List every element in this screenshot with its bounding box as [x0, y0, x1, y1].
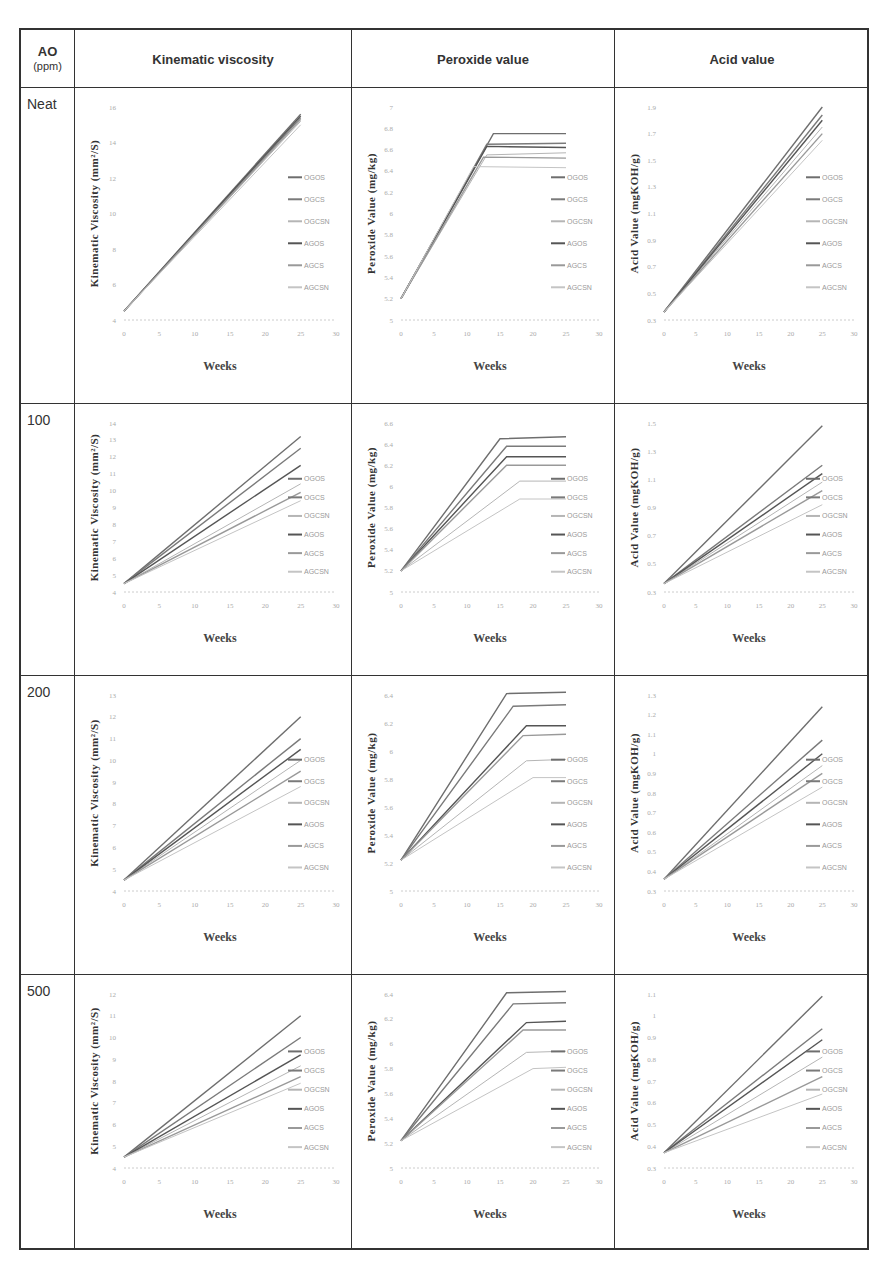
- legend-label: OGOS: [304, 756, 325, 763]
- series-line-agcsn: [401, 778, 566, 861]
- x-axis-label: Weeks: [473, 1207, 507, 1221]
- x-tick-label: 25: [563, 602, 571, 610]
- y-tick-label: 4: [113, 1165, 117, 1173]
- y-tick-label: 1.9: [647, 104, 656, 112]
- legend-label: AGCS: [822, 550, 842, 557]
- x-tick-label: 20: [530, 1178, 538, 1186]
- x-tick-label: 0: [122, 1178, 126, 1186]
- legend-label: OGCSN: [567, 512, 593, 519]
- y-tick-label: 7: [113, 822, 117, 830]
- series-line-ogos: [124, 1016, 301, 1157]
- chart-500-peroxide-value: 55.25.45.65.866.26.4051015202530WeeksPer…: [353, 976, 613, 1250]
- y-tick-label: 5.2: [384, 1140, 393, 1148]
- y-tick-label: 4: [113, 589, 117, 597]
- row-divider: [21, 403, 867, 404]
- legend-label: AGOS: [822, 240, 843, 247]
- row-divider: [21, 675, 867, 676]
- y-tick-label: 0.5: [647, 1121, 656, 1129]
- y-tick-label: 5.8: [384, 1065, 393, 1073]
- series-line-agcsn: [664, 505, 822, 584]
- legend-label: AGOS: [304, 821, 325, 828]
- results-table: AO (ppm) Kinematic viscosity Peroxide va…: [19, 28, 869, 1250]
- x-tick-label: 20: [530, 330, 538, 338]
- header-kinematic-viscosity: Kinematic viscosity: [75, 30, 351, 88]
- y-tick-label: 0.3: [647, 888, 656, 896]
- y-tick-label: 5: [113, 1143, 117, 1151]
- y-tick-label: 6.8: [384, 125, 393, 133]
- legend-label: OGCS: [304, 778, 325, 785]
- x-axis-label: Weeks: [732, 359, 766, 373]
- x-tick-label: 15: [497, 1178, 505, 1186]
- x-tick-label: 25: [819, 901, 827, 909]
- x-tick-label: 0: [662, 602, 666, 610]
- x-axis-label: Weeks: [473, 359, 507, 373]
- x-tick-label: 15: [497, 602, 505, 610]
- x-tick-label: 25: [297, 901, 305, 909]
- legend-label: AGOS: [822, 1105, 843, 1112]
- x-tick-label: 10: [464, 1178, 472, 1186]
- legend-label: AGOS: [567, 1105, 588, 1112]
- y-tick-label: 1.1: [647, 476, 656, 484]
- y-tick-label: 5.8: [384, 231, 393, 239]
- legend-label: AGCSN: [822, 864, 847, 871]
- chart-100-peroxide-value: 55.25.45.65.866.26.46.6051015202530Weeks…: [353, 405, 613, 674]
- y-tick-label: 5.4: [384, 832, 393, 840]
- x-tick-label: 0: [662, 330, 666, 338]
- y-tick-label: 5.6: [384, 1090, 393, 1098]
- x-tick-label: 0: [399, 602, 403, 610]
- y-tick-label: 10: [109, 210, 117, 218]
- y-tick-label: 8: [113, 246, 117, 254]
- legend-label: AGCS: [304, 1124, 324, 1131]
- series-line-agcsn: [124, 125, 301, 311]
- y-tick-label: 6: [390, 748, 394, 756]
- legend-label: OGOS: [822, 1048, 843, 1055]
- x-tick-label: 10: [464, 330, 472, 338]
- legend-label: OGOS: [304, 475, 325, 482]
- x-tick-label: 20: [787, 1178, 795, 1186]
- chart-neat-peroxide-value: 55.25.45.65.866.26.46.66.87051015202530W…: [353, 89, 613, 402]
- series-line-agcs: [124, 119, 301, 311]
- x-tick-label: 25: [819, 330, 827, 338]
- legend-label: AGCSN: [822, 568, 847, 575]
- legend-label: AGCSN: [567, 284, 592, 291]
- series-line-agcs: [401, 1030, 566, 1141]
- legend-label: AGCS: [567, 262, 587, 269]
- y-tick-label: 0.5: [647, 290, 656, 298]
- x-tick-label: 20: [262, 330, 270, 338]
- x-tick-label: 0: [399, 330, 403, 338]
- y-tick-label: 4: [113, 317, 117, 325]
- x-tick-label: 10: [724, 1178, 732, 1186]
- chart-neat-kinematic-viscosity: 46810121416051015202530WeeksKinematic Vi…: [76, 89, 350, 402]
- x-tick-label: 30: [851, 602, 859, 610]
- chart-100-acid-value: 0.30.50.70.91.11.31.5051015202530WeeksAc…: [616, 405, 868, 674]
- x-tick-label: 10: [191, 602, 199, 610]
- y-tick-label: 9: [113, 1056, 117, 1064]
- legend-label: OGOS: [304, 174, 325, 181]
- x-tick-label: 15: [227, 330, 235, 338]
- y-tick-label: 1.3: [647, 692, 656, 700]
- row-label-neat: Neat: [27, 96, 57, 112]
- series-line-ogcsn: [664, 482, 822, 583]
- x-tick-label: 5: [694, 602, 698, 610]
- x-tick-label: 0: [122, 330, 126, 338]
- legend-label: AGOS: [567, 531, 588, 538]
- series-line-agcsn: [401, 499, 566, 571]
- series-line-agcs: [124, 492, 301, 583]
- y-tick-label: 0.6: [647, 1099, 656, 1107]
- x-axis-label: Weeks: [203, 631, 237, 645]
- y-tick-label: 5: [113, 572, 117, 580]
- legend-label: AGCS: [304, 550, 324, 557]
- y-axis-label: Kinematic Viscosity (mm²/S): [88, 719, 101, 867]
- x-tick-label: 15: [756, 901, 764, 909]
- x-tick-label: 0: [399, 1178, 403, 1186]
- series-line-agos: [124, 465, 301, 583]
- legend-label: AGCSN: [304, 864, 329, 871]
- x-tick-label: 30: [333, 901, 341, 909]
- x-axis-label: Weeks: [473, 631, 507, 645]
- legend-label: OGOS: [567, 756, 588, 763]
- series-line-agos: [664, 474, 822, 584]
- y-tick-label: 5.6: [384, 525, 393, 533]
- x-tick-label: 15: [497, 330, 505, 338]
- series-line-ogcs: [401, 705, 566, 860]
- y-tick-label: 13: [109, 692, 117, 700]
